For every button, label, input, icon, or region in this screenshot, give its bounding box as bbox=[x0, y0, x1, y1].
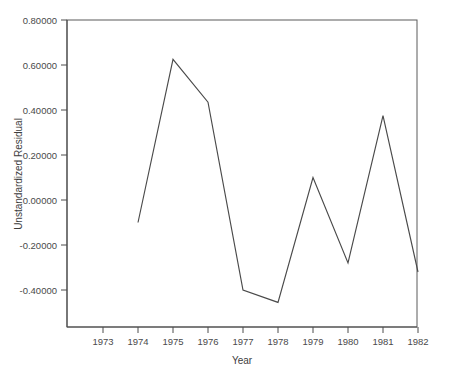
x-tick-label: 1980 bbox=[337, 336, 358, 347]
y-tick-label: 0.20000 bbox=[23, 150, 57, 161]
y-tick-label: 0.40000 bbox=[23, 105, 57, 116]
chart-canvas: 0.80000 0.60000 0.40000 0.20000 0.00000 … bbox=[0, 0, 450, 376]
y-axis-tick-labels: 0.80000 0.60000 0.40000 0.20000 0.00000 … bbox=[19, 15, 57, 296]
y-tick-label: 0.80000 bbox=[23, 15, 57, 26]
x-tick-label: 1974 bbox=[127, 336, 148, 347]
y-axis-ticks bbox=[61, 20, 67, 290]
x-tick-label: 1976 bbox=[197, 336, 218, 347]
x-tick-label: 1982 bbox=[407, 336, 428, 347]
x-tick-label: 1978 bbox=[267, 336, 288, 347]
plot-frame bbox=[67, 20, 417, 327]
x-axis-tick-labels: 1973 1974 1975 1976 1977 1978 1979 1980 … bbox=[92, 336, 428, 347]
x-tick-label: 1975 bbox=[162, 336, 183, 347]
y-axis-title: Unstandardized Residual bbox=[13, 118, 24, 230]
x-axis-ticks bbox=[103, 327, 418, 333]
residual-line-chart: 0.80000 0.60000 0.40000 0.20000 0.00000 … bbox=[0, 0, 450, 376]
x-tick-label: 1973 bbox=[92, 336, 113, 347]
y-tick-label: -0.40000 bbox=[19, 285, 57, 296]
y-tick-label: -0.20000 bbox=[19, 240, 57, 251]
x-tick-label: 1981 bbox=[372, 336, 393, 347]
x-tick-label: 1977 bbox=[232, 336, 253, 347]
y-tick-label: 0.60000 bbox=[23, 60, 57, 71]
x-axis-title: Year bbox=[232, 355, 253, 366]
residual-series-line bbox=[138, 59, 418, 302]
y-tick-label: 0.00000 bbox=[23, 195, 57, 206]
x-tick-label: 1979 bbox=[302, 336, 323, 347]
